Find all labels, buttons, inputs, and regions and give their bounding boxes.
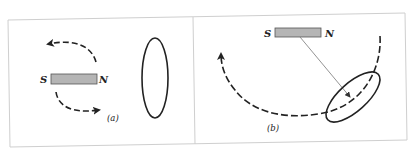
south-pole-label-a: S [40,74,47,85]
magnet-loop-figure: S N (a) S N (b) [0,0,414,152]
caption-a: (a) [107,113,119,123]
panel-divider [193,17,195,144]
rotation-arc-b [221,36,380,116]
rotation-arrow-upper [48,42,96,62]
north-pole-label-a: N [98,74,109,85]
rotation-arrow-lower [56,92,99,111]
panel-a: S N (a) [40,38,168,123]
bar-magnet-a [51,74,97,84]
bar-magnet-b [275,28,321,37]
wire-loop-a [142,38,168,118]
caption-b: (b) [267,123,279,133]
wire-loop-b [318,64,387,130]
panel-b: S N (b) [221,28,388,133]
south-pole-label-b: S [264,28,271,39]
north-pole-label-b: N [324,28,335,39]
